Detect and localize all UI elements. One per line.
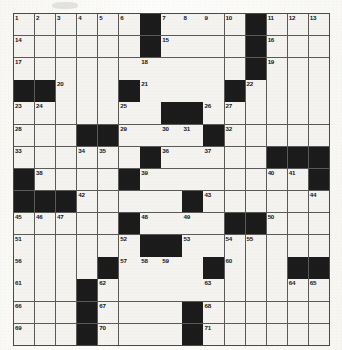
grid-letter-cell[interactable]	[246, 147, 266, 168]
grid-letter-cell[interactable]	[35, 147, 55, 168]
grid-letter-cell[interactable]: 14	[14, 36, 34, 57]
grid-letter-cell[interactable]: 69	[14, 324, 34, 345]
grid-letter-cell[interactable]: 50	[267, 213, 287, 234]
grid-letter-cell[interactable]: 63	[203, 279, 223, 300]
grid-letter-cell[interactable]: 35	[98, 147, 118, 168]
grid-letter-cell[interactable]	[119, 302, 139, 323]
grid-letter-cell[interactable]: 18	[140, 58, 160, 79]
grid-letter-cell[interactable]	[246, 125, 266, 146]
grid-letter-cell[interactable]: 58	[140, 257, 160, 278]
grid-letter-cell[interactable]	[56, 235, 76, 256]
grid-letter-cell[interactable]: 13	[309, 14, 329, 35]
grid-letter-cell[interactable]	[182, 169, 202, 190]
grid-letter-cell[interactable]: 37	[203, 147, 223, 168]
grid-letter-cell[interactable]	[309, 302, 329, 323]
grid-letter-cell[interactable]	[288, 191, 308, 212]
grid-letter-cell[interactable]	[56, 257, 76, 278]
grid-letter-cell[interactable]: 71	[203, 324, 223, 345]
grid-letter-cell[interactable]: 29	[119, 125, 139, 146]
grid-letter-cell[interactable]: 27	[225, 102, 245, 123]
grid-letter-cell[interactable]	[182, 147, 202, 168]
grid-letter-cell[interactable]	[140, 191, 160, 212]
grid-letter-cell[interactable]	[246, 302, 266, 323]
grid-letter-cell[interactable]	[225, 279, 245, 300]
grid-letter-cell[interactable]	[77, 58, 97, 79]
grid-letter-cell[interactable]: 43	[203, 191, 223, 212]
grid-letter-cell[interactable]: 7	[161, 14, 181, 35]
grid-letter-cell[interactable]	[140, 324, 160, 345]
grid-letter-cell[interactable]	[77, 213, 97, 234]
grid-letter-cell[interactable]: 20	[56, 80, 76, 101]
grid-letter-cell[interactable]: 66	[14, 302, 34, 323]
grid-letter-cell[interactable]: 34	[77, 147, 97, 168]
grid-letter-cell[interactable]	[288, 36, 308, 57]
grid-letter-cell[interactable]: 52	[119, 235, 139, 256]
crossword-grid[interactable]: 1234567891011121314151617181920212223242…	[13, 13, 330, 346]
grid-letter-cell[interactable]	[35, 36, 55, 57]
grid-letter-cell[interactable]	[288, 125, 308, 146]
grid-letter-cell[interactable]: 62	[98, 279, 118, 300]
grid-letter-cell[interactable]: 15	[161, 36, 181, 57]
grid-letter-cell[interactable]	[56, 125, 76, 146]
grid-letter-cell[interactable]	[267, 302, 287, 323]
grid-letter-cell[interactable]	[246, 169, 266, 190]
grid-letter-cell[interactable]	[77, 102, 97, 123]
grid-letter-cell[interactable]	[77, 257, 97, 278]
grid-letter-cell[interactable]: 70	[98, 324, 118, 345]
grid-letter-cell[interactable]: 3	[56, 14, 76, 35]
grid-letter-cell[interactable]: 36	[161, 147, 181, 168]
grid-letter-cell[interactable]: 65	[309, 279, 329, 300]
grid-letter-cell[interactable]	[246, 102, 266, 123]
grid-letter-cell[interactable]	[203, 58, 223, 79]
grid-letter-cell[interactable]	[56, 102, 76, 123]
grid-letter-cell[interactable]	[119, 58, 139, 79]
grid-letter-cell[interactable]	[309, 235, 329, 256]
grid-letter-cell[interactable]	[98, 191, 118, 212]
grid-letter-cell[interactable]	[35, 257, 55, 278]
grid-letter-cell[interactable]: 26	[203, 102, 223, 123]
grid-letter-cell[interactable]	[35, 324, 55, 345]
grid-letter-cell[interactable]	[267, 125, 287, 146]
grid-letter-cell[interactable]	[267, 102, 287, 123]
grid-letter-cell[interactable]: 17	[14, 58, 34, 79]
grid-letter-cell[interactable]	[77, 80, 97, 101]
grid-letter-cell[interactable]	[98, 36, 118, 57]
grid-letter-cell[interactable]	[161, 213, 181, 234]
grid-letter-cell[interactable]	[119, 324, 139, 345]
grid-letter-cell[interactable]	[98, 169, 118, 190]
grid-letter-cell[interactable]	[161, 324, 181, 345]
grid-letter-cell[interactable]	[225, 147, 245, 168]
grid-letter-cell[interactable]	[56, 169, 76, 190]
grid-letter-cell[interactable]	[119, 191, 139, 212]
grid-letter-cell[interactable]: 33	[14, 147, 34, 168]
grid-letter-cell[interactable]: 32	[225, 125, 245, 146]
grid-letter-cell[interactable]	[161, 58, 181, 79]
grid-letter-cell[interactable]	[56, 279, 76, 300]
grid-letter-cell[interactable]	[140, 102, 160, 123]
grid-letter-cell[interactable]	[288, 213, 308, 234]
grid-letter-cell[interactable]	[225, 169, 245, 190]
grid-letter-cell[interactable]	[182, 279, 202, 300]
grid-letter-cell[interactable]	[161, 302, 181, 323]
grid-letter-cell[interactable]: 19	[267, 58, 287, 79]
grid-letter-cell[interactable]	[140, 279, 160, 300]
grid-letter-cell[interactable]	[56, 147, 76, 168]
grid-letter-cell[interactable]: 9	[203, 14, 223, 35]
grid-letter-cell[interactable]	[203, 213, 223, 234]
grid-letter-cell[interactable]	[225, 191, 245, 212]
grid-letter-cell[interactable]	[288, 324, 308, 345]
grid-letter-cell[interactable]	[35, 235, 55, 256]
grid-letter-cell[interactable]	[267, 279, 287, 300]
grid-letter-cell[interactable]	[119, 36, 139, 57]
grid-letter-cell[interactable]	[140, 125, 160, 146]
grid-letter-cell[interactable]: 12	[288, 14, 308, 35]
grid-letter-cell[interactable]	[225, 324, 245, 345]
grid-letter-cell[interactable]: 16	[267, 36, 287, 57]
grid-letter-cell[interactable]: 11	[267, 14, 287, 35]
grid-letter-cell[interactable]	[246, 324, 266, 345]
grid-letter-cell[interactable]	[288, 80, 308, 101]
grid-letter-cell[interactable]	[203, 80, 223, 101]
grid-letter-cell[interactable]: 10	[225, 14, 245, 35]
grid-letter-cell[interactable]: 22	[246, 80, 266, 101]
grid-letter-cell[interactable]: 38	[35, 169, 55, 190]
